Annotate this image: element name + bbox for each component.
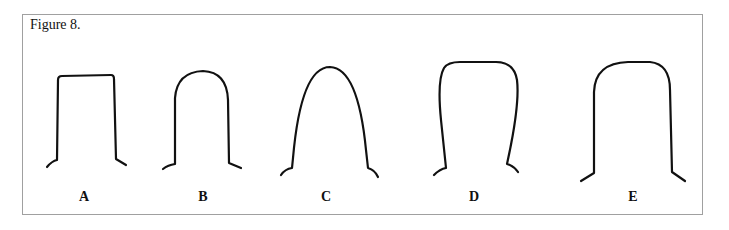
shape-c-outline — [281, 67, 378, 177]
shape-b-outline — [163, 71, 241, 169]
label-a: A — [69, 189, 99, 205]
label-b: B — [188, 189, 218, 205]
label-e: E — [618, 189, 648, 205]
label-c: C — [311, 189, 341, 205]
shape-d-outline — [434, 62, 518, 175]
shape-a-outline — [47, 75, 126, 167]
label-d: D — [459, 189, 489, 205]
shape-e-outline — [581, 62, 685, 181]
